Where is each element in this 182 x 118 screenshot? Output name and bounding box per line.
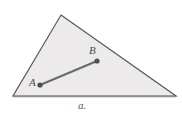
- point-a-label: A: [29, 77, 36, 88]
- point-b-dot: [94, 58, 99, 63]
- point-b-label: B: [89, 45, 96, 56]
- geometry-figure: A B a.: [0, 0, 182, 118]
- point-a-dot: [37, 82, 42, 87]
- figure-canvas: [0, 0, 182, 118]
- figure-caption: a.: [78, 100, 86, 111]
